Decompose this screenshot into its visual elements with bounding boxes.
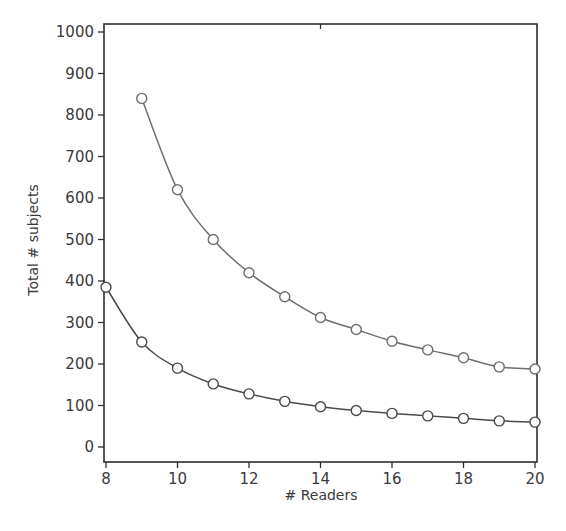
data-point-marker <box>101 282 111 292</box>
y-tick-label: 400 <box>65 272 94 290</box>
plot-border <box>104 24 537 462</box>
x-tick-label: 10 <box>168 470 187 488</box>
y-tick-label: 800 <box>65 106 94 124</box>
data-point-marker <box>530 364 540 374</box>
y-tick-label: 200 <box>65 355 94 373</box>
data-point-marker <box>173 363 183 373</box>
y-tick-label: 500 <box>65 231 94 249</box>
data-point-marker <box>530 417 540 427</box>
y-tick-label: 100 <box>65 397 94 415</box>
y-tick-label: 600 <box>65 189 94 207</box>
series-line <box>142 98 535 369</box>
data-point-marker <box>208 379 218 389</box>
data-point-marker <box>244 389 254 399</box>
x-tick-label: 20 <box>525 470 544 488</box>
data-point-marker <box>387 336 397 346</box>
y-tick-label: 1000 <box>56 23 94 41</box>
data-point-marker <box>494 416 504 426</box>
line-chart: 01002003004005006007008009001000 8101214… <box>0 0 566 531</box>
y-tick-label: 900 <box>65 65 94 83</box>
series-layer <box>101 93 540 427</box>
plot-frame <box>104 24 537 462</box>
data-point-marker <box>137 93 147 103</box>
data-point-marker <box>423 345 433 355</box>
y-axis: 01002003004005006007008009001000 <box>56 23 104 456</box>
data-point-marker <box>316 402 326 412</box>
data-point-marker <box>244 268 254 278</box>
y-tick-label: 700 <box>65 148 94 166</box>
x-tick-label: 8 <box>101 470 111 488</box>
y-axis-title: Total # subjects <box>25 184 41 296</box>
series-lower <box>101 282 540 427</box>
data-point-marker <box>459 413 469 423</box>
x-tick-label: 18 <box>454 470 473 488</box>
x-tick-label: 14 <box>311 470 330 488</box>
data-point-marker <box>387 408 397 418</box>
data-point-marker <box>423 411 433 421</box>
x-tick-label: 12 <box>239 470 258 488</box>
x-axis: 8101214161820 <box>101 462 544 488</box>
data-point-marker <box>280 396 290 406</box>
y-tick-label: 300 <box>65 314 94 332</box>
data-point-marker <box>459 353 469 363</box>
series-upper <box>137 93 540 374</box>
data-point-marker <box>351 405 361 415</box>
data-point-marker <box>280 292 290 302</box>
data-point-marker <box>173 185 183 195</box>
data-point-marker <box>316 313 326 323</box>
data-point-marker <box>208 235 218 245</box>
y-tick-label: 0 <box>84 438 94 456</box>
data-point-marker <box>137 337 147 347</box>
x-tick-label: 16 <box>382 470 401 488</box>
data-point-marker <box>494 362 504 372</box>
x-axis-title: # Readers <box>284 487 357 503</box>
data-point-marker <box>351 325 361 335</box>
